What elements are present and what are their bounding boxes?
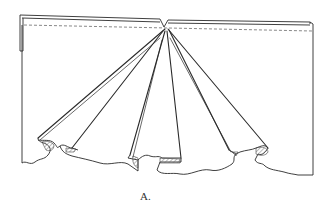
pleated-fabric-diagram — [0, 0, 330, 211]
panel-outline — [20, 15, 313, 175]
hem-edge — [22, 138, 298, 175]
hatched-fold-shadows — [42, 141, 268, 168]
stitch-line — [24, 25, 312, 31]
pleat-folds — [38, 29, 268, 158]
figure-caption: A. — [140, 190, 151, 202]
